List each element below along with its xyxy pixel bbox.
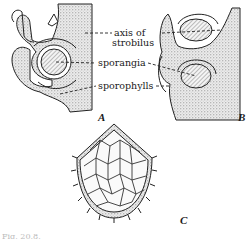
panel-c-drawing [71,124,157,223]
label-sporophylls: sporophylls [98,81,153,91]
figure-caption: Fig. 20.8. [2,232,247,239]
label-sporangia: sporangia [98,58,146,68]
panel-label-c: C [180,214,187,226]
panel-b-drawing [159,8,240,120]
botanical-figure: axis of strobilus sporangia sporophylls … [0,0,249,239]
panel-a-drawing [12,4,92,112]
panel-label-a: A [98,111,105,123]
panel-label-b: B [238,111,245,123]
label-axis-of-strobilus-line2: strobilus [112,38,154,48]
